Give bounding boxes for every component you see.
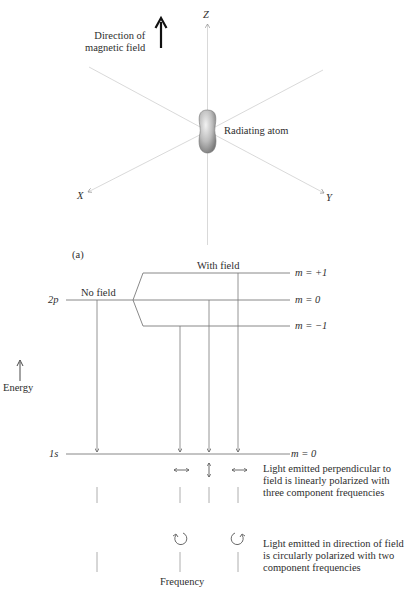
- with-field-label: With field: [197, 260, 239, 272]
- split-up: [133, 273, 290, 300]
- counterclockwise-arrow-icon: [173, 533, 187, 545]
- field-label-line2: magnetic field: [85, 42, 145, 54]
- m-plus-one-label: m = +1: [295, 267, 327, 279]
- perpendicular-description: Light emitted perpendicular to field is …: [263, 463, 408, 499]
- perpendicular-spectrum: [97, 487, 238, 503]
- diagram-canvas: [0, 0, 409, 598]
- m-minus-one-label: m = −1: [295, 320, 327, 332]
- x-axis-neg: [89, 67, 208, 131]
- parallel-description: Light emitted in direction of field is c…: [263, 538, 408, 574]
- field-label-line1: Direction of: [85, 30, 145, 42]
- panel-label: (a): [72, 249, 84, 261]
- clockwise-arrow-icon: [231, 533, 245, 545]
- state-1s-label: 1s: [49, 448, 58, 460]
- energy-levels: [66, 273, 290, 454]
- energy-label: Energy: [3, 382, 33, 394]
- energy-arrow-icon: [17, 360, 23, 381]
- split-down: [133, 300, 290, 326]
- m-zero-label: m = 0: [295, 294, 320, 306]
- axis-x-label: X: [77, 190, 83, 202]
- atom-label: Radiating atom: [224, 125, 288, 137]
- parallel-spectrum: [97, 552, 238, 572]
- axis-z-label: Z: [203, 9, 209, 21]
- y-axis-neg: [208, 70, 324, 131]
- x-axis-pos: [88, 131, 208, 192]
- axis-y-label: Y: [326, 192, 332, 204]
- atom-shape: [199, 110, 216, 153]
- linear-polarization-icons: [174, 463, 247, 477]
- m-ground-label: m = 0: [291, 448, 316, 460]
- frequency-label: Frequency: [160, 576, 204, 588]
- field-direction-label: Direction of magnetic field: [85, 30, 145, 54]
- no-field-label: No field: [81, 287, 116, 299]
- magnetic-field-arrow-icon: [156, 18, 167, 48]
- y-axis-pos: [208, 131, 325, 193]
- state-2p-label: 2p: [48, 294, 59, 306]
- circular-polarization-icons: [173, 533, 245, 545]
